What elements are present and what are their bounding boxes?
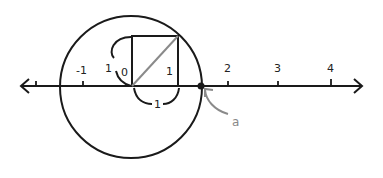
tick-label: -1 <box>76 64 87 77</box>
point-a <box>198 83 205 90</box>
left-side-label: 1 <box>105 62 112 75</box>
origin-label: 0 <box>121 66 128 79</box>
diagonal <box>132 36 178 86</box>
annotation-arrow <box>205 90 228 114</box>
diagram-canvas: -1 1 2 3 4 1 0 1 a <box>0 0 383 178</box>
tick-label: 2 <box>224 62 231 75</box>
tick-label: 1 <box>166 65 173 78</box>
point-a-label: a <box>232 115 239 129</box>
ticks <box>36 79 331 86</box>
bottom-side-label: 1 <box>154 98 161 111</box>
tick-label: 4 <box>327 62 334 75</box>
tick-label: 3 <box>274 62 281 75</box>
